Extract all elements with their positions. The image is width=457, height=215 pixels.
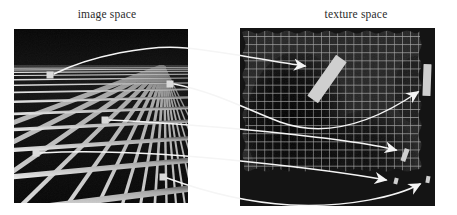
texture-footprint-tiny-b [425,176,430,184]
image-space-render [14,29,188,203]
image-space-sky [14,29,188,66]
figure-root: image space texture space [0,0,457,215]
pixel-footprint-marker-1 [47,72,54,79]
image-space-panel [14,29,188,203]
texture-space-caption: texture space [308,8,404,20]
pixel-footprint-marker-5 [160,174,167,181]
pixel-footprint-marker-2 [167,81,174,88]
pixel-footprint-marker-4 [33,150,40,157]
horizon-glow [14,65,188,72]
pixel-footprint-marker-3 [102,117,109,124]
texture-footprint-vertical-bar [422,64,431,96]
texture-sheet [240,28,435,206]
texture-footprint-tiny-a [393,178,398,185]
texture-space-panel [240,28,435,206]
texture-space-render [240,28,435,206]
image-space-caption: image space [62,8,152,20]
